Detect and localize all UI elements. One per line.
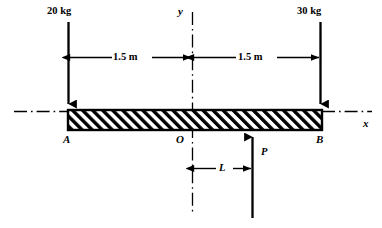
beam-diagram: 20 kg 30 kg 1.5 m 1.5 m L P A O B x y bbox=[0, 0, 382, 228]
reaction-label-p: P bbox=[261, 147, 267, 158]
axis-label-y: y bbox=[178, 6, 183, 17]
load-label-left: 20 kg bbox=[47, 6, 71, 17]
axis-label-x: x bbox=[363, 118, 369, 129]
witness-lines bbox=[69, 30, 321, 64]
point-label-o: O bbox=[176, 134, 184, 145]
beam-body bbox=[68, 110, 322, 130]
dimension-label-l: L bbox=[219, 163, 225, 174]
dimension-label-left-span: 1.5 m bbox=[113, 52, 138, 63]
diagram-canvas bbox=[0, 0, 382, 228]
point-label-b: B bbox=[316, 134, 323, 145]
dimension-label-right-span: 1.5 m bbox=[238, 52, 263, 63]
point-label-a: A bbox=[63, 134, 70, 145]
load-label-right: 30 kg bbox=[297, 6, 321, 17]
